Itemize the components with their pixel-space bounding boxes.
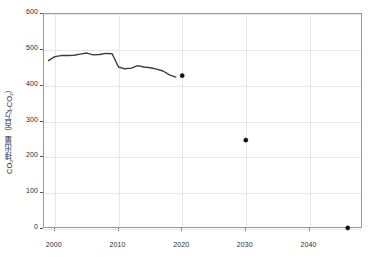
x-axis-tick-label: 2020 bbox=[173, 241, 189, 248]
plot-area bbox=[43, 13, 362, 228]
y-axis-tick-label: 500 bbox=[4, 44, 38, 51]
x-axis-tick-label: 2030 bbox=[237, 241, 253, 248]
x-axis-tick-label: 2000 bbox=[46, 241, 62, 248]
y-axis-tick-label: 300 bbox=[4, 116, 38, 123]
y-axis-tick-label: 200 bbox=[4, 151, 38, 158]
y-axis-tick-mark bbox=[40, 228, 43, 229]
y-axis-tick-label: 0 bbox=[4, 223, 38, 230]
target-markers bbox=[180, 74, 350, 230]
y-axis-tick-label: 400 bbox=[4, 80, 38, 87]
gridline-horizontal bbox=[44, 229, 361, 230]
data-point-marker bbox=[346, 226, 350, 230]
co2-emissions-chart: CO₂排出量（百万t-CO₂） 0100200300400500600 2000… bbox=[0, 0, 374, 257]
y-axis-tick-label: 100 bbox=[4, 187, 38, 194]
x-axis-tick-label: 2040 bbox=[301, 241, 317, 248]
data-point-marker bbox=[180, 74, 184, 78]
y-axis-tick-label: 600 bbox=[4, 8, 38, 15]
y-axis-title: CO₂排出量（百万t-CO₂） bbox=[2, 50, 16, 210]
series-layer bbox=[44, 14, 363, 229]
historical-emissions-line bbox=[48, 53, 175, 77]
x-axis-tick-label: 2010 bbox=[110, 241, 126, 248]
data-point-marker bbox=[244, 138, 248, 142]
